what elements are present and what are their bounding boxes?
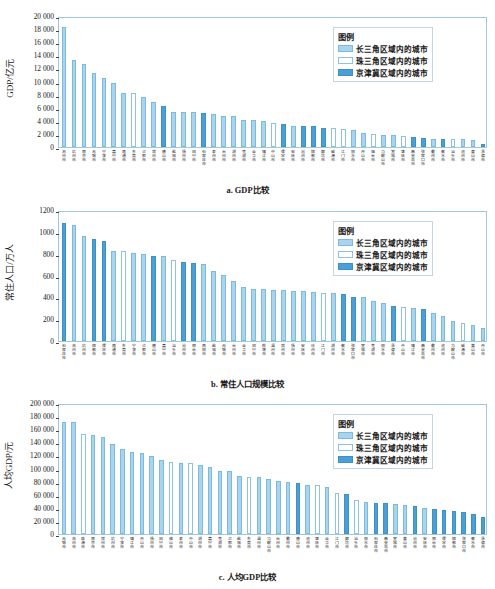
bar (442, 510, 447, 535)
bar (171, 112, 176, 147)
x-tick-label: 徐州市 (310, 344, 314, 356)
x-tick-label: 嘉兴市 (111, 150, 115, 162)
x-tick-label: 江门市 (334, 537, 338, 549)
x-tick-label: 沧州市 (181, 344, 185, 356)
x-tick-label: 湖州市 (330, 344, 334, 356)
bar (82, 64, 87, 147)
bar (81, 434, 86, 534)
legend-item-cj: 长三角区域内的城市 (338, 430, 428, 441)
bar (374, 503, 379, 534)
y-tick-label: 140 000 (30, 440, 54, 447)
y-axis-ticks-c: 020 00040 00060 00080 000100 000120 0001… (14, 404, 54, 535)
y-tick-label: 12 000 (34, 66, 54, 73)
x-tick-label: 合肥市 (227, 537, 231, 549)
x-tick-label: 金华市 (241, 344, 245, 356)
bar (140, 453, 145, 534)
bar (471, 325, 476, 341)
bar (291, 126, 296, 147)
bar (276, 481, 281, 534)
x-tick-label: 南通市 (111, 344, 115, 356)
bar (286, 482, 291, 534)
bar (411, 308, 416, 341)
x-tick-label: 丽水市 (350, 150, 354, 162)
y-tick-mark (56, 97, 59, 98)
y-tick-label: 800 (43, 251, 54, 258)
bar (431, 313, 436, 341)
bar (441, 316, 446, 341)
bar (422, 508, 427, 534)
y-tick-mark (56, 31, 59, 32)
legend-label-zj: 珠三角区域内的城市 (356, 442, 428, 453)
y-tick-label: 0 (50, 144, 54, 151)
bar (281, 124, 286, 147)
x-tick-label: 杭州市 (110, 537, 114, 549)
legend-item-jjj: 京津冀区域内的城市 (338, 454, 428, 465)
bar (227, 471, 232, 534)
y-tick-label: 2 000 (37, 131, 54, 138)
x-tick-label: 宣城市 (390, 150, 394, 162)
bar (218, 471, 223, 534)
bar (391, 135, 396, 147)
bar (341, 294, 346, 341)
x-tick-label: 丽水市 (380, 344, 384, 356)
x-tick-label: 苏州市 (61, 150, 65, 162)
y-tick-label: 0 (50, 338, 54, 345)
bar (130, 452, 135, 534)
y-tick-label: 20 000 (34, 13, 54, 20)
bar (161, 106, 166, 147)
bar (271, 123, 276, 147)
x-tick-label: 宁波市 (101, 150, 105, 162)
x-tick-label: 泰州市 (178, 537, 182, 549)
bar (141, 254, 146, 341)
x-tick-label: 肇庆市 (314, 537, 318, 549)
y-tick-mark (56, 299, 59, 300)
x-tick-label: 台州市 (275, 537, 279, 549)
x-tick-label: 无锡市 (221, 344, 225, 356)
x-tick-label: 邢台市 (191, 344, 195, 356)
x-tick-label: 镇江市 (129, 537, 133, 549)
legend-swatch-cj (338, 239, 353, 246)
bar (291, 291, 296, 341)
legend-swatch-jjj (338, 69, 353, 76)
x-tick-label: 邯郸市 (310, 150, 314, 162)
bar (221, 116, 226, 147)
bar (311, 292, 316, 341)
x-tick-label: 舟山市 (360, 150, 364, 162)
y-tick-label: 16 000 (34, 39, 54, 46)
x-tick-label: 衡水市 (340, 344, 344, 356)
legend-swatch-cj (338, 432, 353, 439)
bar (241, 120, 246, 147)
bar (401, 136, 406, 147)
legend-item-jjj: 京津冀区域内的城市 (338, 67, 428, 78)
bar (221, 275, 226, 341)
bar (461, 323, 466, 341)
bar (391, 306, 396, 341)
x-tick-label: 泰州市 (211, 150, 215, 162)
bar (266, 479, 271, 534)
bar (141, 97, 146, 147)
bar (401, 307, 406, 341)
x-tick-label: 张家口市 (420, 150, 424, 166)
caption-c: c. 人均GDP比较 (0, 570, 495, 582)
y-tick-mark (56, 70, 59, 71)
y-tick-label: 18 000 (34, 26, 54, 33)
bar (131, 253, 136, 341)
bar (481, 517, 486, 534)
y-tick-mark (56, 431, 59, 432)
y-tick-label: 200 000 (30, 400, 54, 407)
x-tick-label: 邯郸市 (451, 537, 455, 549)
legend-item-zj: 珠三角区域内的城市 (338, 442, 428, 453)
legend-label-zj: 珠三角区域内的城市 (356, 249, 428, 260)
y-tick-mark (56, 149, 59, 150)
y-tick-mark (56, 510, 59, 511)
x-tick-label: 芜湖市 (370, 344, 374, 356)
x-tick-label: 石家庄市 (201, 150, 205, 166)
y-tick-mark (56, 18, 59, 19)
bar (201, 113, 206, 147)
x-tick-label: 黄山市 (470, 150, 474, 162)
x-tick-label: 秦皇岛市 (420, 344, 424, 360)
x-tick-label: 金华市 (251, 150, 255, 162)
y-axis-ticks-b: 020040060080010001200 (14, 211, 54, 342)
x-tick-label: 池州市 (305, 537, 309, 549)
x-tick-label: 威海市 (460, 344, 464, 356)
